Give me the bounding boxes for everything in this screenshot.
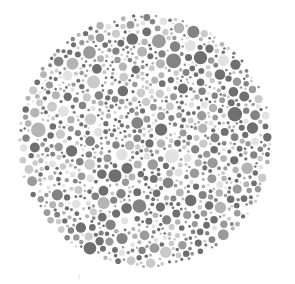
plate-dot	[123, 258, 126, 261]
plate-dot	[84, 135, 87, 138]
plate-dot	[262, 152, 265, 155]
plate-dot	[76, 222, 86, 232]
plate-dot	[182, 20, 185, 23]
plate-dot	[198, 68, 204, 74]
plate-dot	[135, 111, 139, 115]
plate-dot	[156, 90, 164, 98]
plate-dot	[63, 67, 66, 70]
plate-dot	[212, 93, 218, 99]
plate-dot	[205, 45, 213, 53]
plate-dot	[220, 221, 227, 228]
plate-dot	[73, 218, 77, 222]
plate-dot	[44, 110, 48, 114]
plate-dot	[161, 227, 164, 230]
plate-dot	[185, 54, 192, 61]
plate-dot	[108, 258, 112, 262]
plate-dot	[199, 139, 207, 147]
plate-dot	[69, 163, 73, 167]
plate-dot	[124, 58, 127, 61]
plate-dot	[124, 105, 128, 109]
plate-dot	[265, 160, 270, 165]
plate-dot	[246, 188, 252, 194]
plate-dot	[208, 86, 211, 89]
plate-dot	[223, 93, 226, 96]
plate-dot	[106, 24, 112, 30]
plate-dot	[203, 222, 210, 229]
plate-dot	[166, 36, 171, 41]
plate-dot	[104, 154, 112, 162]
plate-dot	[168, 69, 171, 72]
plate-dot	[94, 180, 98, 184]
plate-dot	[39, 183, 42, 186]
plate-dot	[71, 159, 74, 162]
plate-dot	[131, 90, 134, 93]
plate-dot	[184, 187, 187, 190]
plate-dot	[201, 172, 204, 175]
plate-dot	[128, 102, 132, 106]
plate-dot	[98, 186, 108, 196]
plate-dot	[95, 30, 98, 33]
plate-dot	[149, 150, 152, 153]
plate-dot	[176, 112, 182, 118]
plate-dot	[253, 170, 258, 175]
plate-dot	[176, 81, 179, 84]
plate-dot	[169, 139, 174, 144]
plate-dot	[150, 243, 160, 253]
plate-dot	[128, 195, 131, 198]
plate-dot	[150, 19, 155, 24]
plate-dot	[233, 78, 241, 86]
plate-dot	[218, 108, 223, 113]
plate-dot	[232, 71, 235, 74]
plate-dot	[173, 238, 176, 241]
plate-dot	[208, 169, 212, 173]
plate-dot	[231, 129, 234, 132]
plate-dot	[218, 55, 229, 66]
plate-dot	[79, 67, 82, 70]
plate-dot	[94, 128, 103, 137]
plate-dot	[209, 142, 212, 145]
plate-dot	[103, 129, 108, 134]
plate-dot	[204, 243, 207, 246]
plate-dot	[239, 92, 249, 102]
plate-dot	[73, 97, 79, 103]
plate-dot	[161, 100, 164, 103]
plate-dot	[77, 33, 81, 37]
plate-dot	[166, 53, 181, 68]
plate-dot	[43, 177, 46, 180]
plate-dot	[186, 37, 189, 40]
plate-dot	[153, 212, 159, 218]
plate-dot	[93, 59, 96, 62]
plate-dot	[189, 76, 192, 79]
plate-dot	[41, 67, 45, 71]
plate-dot	[85, 214, 89, 218]
plate-dot	[54, 143, 63, 152]
plate-dot	[180, 258, 183, 261]
plate-dot	[228, 186, 231, 189]
plate-dot	[133, 61, 137, 65]
plate-dot	[92, 192, 100, 200]
plate-dot	[23, 114, 28, 119]
plate-dot	[157, 265, 160, 268]
plate-dot	[217, 142, 220, 145]
plate-dot	[118, 81, 121, 84]
plate-dot	[206, 65, 211, 70]
plate-dot	[200, 99, 203, 102]
plate-dot	[131, 53, 134, 56]
plate-dot	[152, 122, 155, 125]
plate-dot	[215, 69, 226, 80]
plate-dot	[155, 26, 161, 32]
plate-dot	[220, 93, 223, 96]
plate-dot	[158, 177, 162, 181]
plate-dot	[116, 233, 127, 244]
plate-dot	[23, 106, 29, 112]
plate-dot	[230, 156, 238, 164]
plate-dot	[194, 236, 197, 239]
plate-dot	[139, 104, 142, 107]
plate-dot	[77, 46, 80, 49]
plate-dot	[67, 50, 72, 55]
plate-dot	[243, 81, 248, 86]
plate-dot	[47, 132, 53, 138]
plate-dot	[145, 139, 153, 147]
plate-dot	[230, 59, 240, 69]
plate-dot	[197, 111, 206, 120]
